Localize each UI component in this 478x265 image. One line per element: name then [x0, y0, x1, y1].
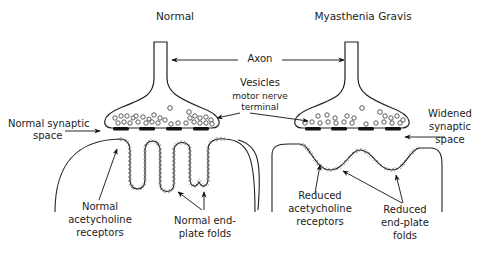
normal-receptors-line2: acetycholine [60, 214, 140, 226]
reduced-folds-line2: end-plate [370, 217, 440, 229]
widened-space-line2: synaptic [425, 121, 475, 133]
widened-space-line1: Widened [425, 108, 475, 120]
mg-left-muscle-edge [238, 140, 259, 210]
axon-label: Axon [240, 53, 280, 65]
reduced-receptors-line2: acetycholine [280, 203, 360, 215]
reduced-folds-line1: Reduced [370, 204, 440, 216]
normal-receptors-line1: Normal [60, 201, 140, 213]
reduced-receptors-line3: receptors [280, 216, 360, 228]
reduced-receptors-line1: Reduced [280, 190, 360, 202]
normal-synaptic-space-line2: space [33, 130, 62, 142]
normal-folds-line1: Normal end- [165, 215, 245, 227]
panel-title-myasthenia: Myasthenia Gravis [298, 10, 428, 22]
vesicles-label: Vesicles [220, 77, 300, 89]
mg-nerve-terminal [295, 42, 409, 128]
normal-receptors-line3: receptors [60, 227, 140, 239]
normal-folds-line2: plate folds [165, 228, 245, 240]
normal-synaptic-space-line1: Normal synaptic [8, 118, 90, 130]
panel-title-normal: Normal [140, 10, 210, 22]
reduced-folds-line3: folds [370, 230, 440, 242]
widened-space-line3: space [425, 134, 475, 146]
terminal-label-line2: terminal [220, 101, 300, 113]
